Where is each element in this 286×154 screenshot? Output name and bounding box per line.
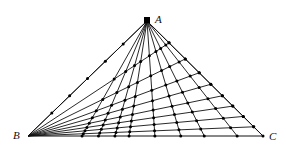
intersection-dot bbox=[122, 43, 125, 46]
intersection-dot bbox=[117, 121, 120, 124]
intersection-dots bbox=[50, 20, 264, 138]
intersection-dot bbox=[195, 119, 198, 122]
segment bbox=[28, 73, 199, 136]
intersection-dot bbox=[68, 94, 71, 97]
intersection-dot bbox=[168, 95, 171, 98]
intersection-dot bbox=[175, 80, 178, 83]
intersection-dot bbox=[97, 135, 100, 138]
intersection-dot bbox=[164, 84, 167, 87]
intersection-dot bbox=[139, 60, 142, 63]
intersection-dot bbox=[101, 98, 104, 101]
intersection-dot bbox=[104, 60, 107, 63]
intersection-dot bbox=[178, 60, 181, 63]
intersection-dot bbox=[148, 54, 151, 57]
intersection-dot bbox=[159, 47, 162, 50]
intersection-dot bbox=[198, 86, 201, 89]
intersection-dot bbox=[85, 126, 88, 129]
intersection-dot bbox=[102, 124, 105, 127]
intersection-dot bbox=[149, 74, 152, 77]
intersection-dot bbox=[86, 77, 89, 80]
intersection-dot bbox=[168, 41, 171, 44]
intersection-dot bbox=[153, 129, 156, 132]
intersection-dot bbox=[82, 132, 85, 135]
intersection-dot bbox=[113, 78, 116, 81]
intersection-dot bbox=[121, 108, 124, 111]
segment bbox=[28, 43, 169, 136]
intersection-dot bbox=[91, 116, 94, 119]
vertex-label-b: B bbox=[13, 129, 20, 141]
intersection-dot bbox=[153, 135, 156, 138]
intersection-dot bbox=[184, 57, 187, 60]
intersection-dot bbox=[131, 113, 134, 116]
intersection-dot bbox=[262, 135, 265, 138]
intersection-dot bbox=[199, 127, 202, 130]
intersection-dot bbox=[83, 129, 86, 132]
intersection-dot bbox=[119, 115, 122, 118]
triangle-diagram: A B C bbox=[0, 0, 286, 154]
intersection-dot bbox=[153, 123, 156, 126]
intersection-dot bbox=[127, 85, 130, 88]
intersection-dot bbox=[133, 64, 136, 67]
intersection-dot bbox=[189, 75, 192, 78]
intersection-dot bbox=[98, 132, 101, 135]
cevian-lines bbox=[28, 21, 263, 136]
intersection-dot bbox=[95, 109, 98, 112]
intersection-dot bbox=[252, 125, 255, 128]
intersection-dot bbox=[152, 109, 155, 112]
vertex-label-c: C bbox=[269, 130, 277, 142]
intersection-dot bbox=[191, 111, 194, 114]
intersection-dot bbox=[222, 117, 225, 120]
intersection-dot bbox=[129, 125, 132, 128]
intersection-dot bbox=[154, 50, 157, 53]
segment bbox=[28, 116, 243, 136]
intersection-dot bbox=[150, 89, 153, 92]
intersection-dot bbox=[236, 135, 239, 138]
intersection-dot bbox=[203, 135, 206, 138]
intersection-dot bbox=[152, 116, 155, 119]
intersection-dot bbox=[231, 105, 234, 108]
intersection-dot bbox=[113, 135, 116, 138]
intersection-dot bbox=[115, 91, 118, 94]
intersection-dot bbox=[114, 131, 117, 134]
intersection-dot bbox=[132, 105, 135, 108]
intersection-dot bbox=[214, 107, 217, 110]
intersection-dot bbox=[104, 119, 107, 122]
intersection-dot bbox=[177, 128, 180, 131]
vertex-label-a: A bbox=[154, 13, 162, 25]
intersection-dot bbox=[151, 99, 154, 102]
intersection-dot bbox=[229, 126, 232, 129]
intersection-dot bbox=[107, 112, 110, 115]
intersection-dot bbox=[209, 83, 212, 86]
vertex-a-marker bbox=[144, 17, 150, 23]
intersection-dot bbox=[160, 69, 163, 72]
intersection-dot bbox=[128, 130, 131, 133]
segment bbox=[115, 21, 147, 136]
intersection-dot bbox=[124, 70, 127, 73]
intersection-dot bbox=[175, 121, 178, 124]
intersection-dot bbox=[110, 104, 113, 107]
intersection-dot bbox=[186, 101, 189, 104]
intersection-dot bbox=[242, 115, 245, 118]
intersection-dot bbox=[88, 122, 91, 125]
segment bbox=[28, 96, 222, 136]
intersection-dot bbox=[206, 97, 209, 100]
intersection-dot bbox=[171, 105, 174, 108]
intersection-dot bbox=[136, 81, 139, 84]
intersection-dot bbox=[164, 43, 167, 46]
intersection-dot bbox=[116, 126, 119, 129]
intersection-dot bbox=[173, 113, 176, 116]
segment bbox=[147, 21, 263, 136]
intersection-dot bbox=[123, 99, 126, 102]
intersection-dot bbox=[221, 94, 224, 97]
intersection-dot bbox=[100, 128, 103, 131]
intersection-dot bbox=[179, 135, 182, 138]
intersection-dot bbox=[181, 91, 184, 94]
intersection-dot bbox=[168, 65, 171, 68]
intersection-dot bbox=[50, 112, 53, 115]
intersection-dot bbox=[128, 135, 131, 138]
intersection-dot bbox=[198, 71, 201, 74]
intersection-dot bbox=[134, 95, 137, 98]
intersection-dot bbox=[130, 119, 133, 122]
